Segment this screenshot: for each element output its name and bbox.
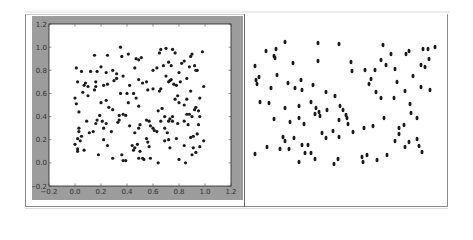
data-point <box>375 90 378 95</box>
data-point <box>364 68 367 73</box>
data-point <box>106 144 109 147</box>
data-point <box>314 157 317 162</box>
data-point <box>111 108 114 111</box>
data-point <box>332 129 335 134</box>
data-point <box>307 143 310 148</box>
data-point <box>416 137 419 142</box>
data-point <box>177 101 180 104</box>
data-point <box>131 144 134 147</box>
data-point <box>317 59 320 64</box>
data-point <box>202 139 205 142</box>
data-point <box>337 157 340 162</box>
data-point <box>310 100 313 105</box>
data-point <box>338 42 341 47</box>
data-point <box>310 151 313 156</box>
data-point <box>145 137 148 140</box>
data-point <box>155 66 158 69</box>
data-point <box>122 74 125 77</box>
data-point <box>404 145 407 150</box>
data-point <box>105 99 108 102</box>
data-point <box>362 160 365 165</box>
data-point <box>284 40 287 45</box>
data-point <box>128 124 131 127</box>
data-point <box>170 78 173 81</box>
data-point <box>185 98 188 101</box>
data-point <box>119 46 122 49</box>
data-point <box>404 89 407 94</box>
data-point <box>118 114 121 117</box>
data-point <box>303 122 306 127</box>
data-point <box>146 140 149 143</box>
data-point <box>111 69 114 72</box>
data-point <box>298 104 301 109</box>
data-point <box>115 72 118 75</box>
data-point <box>142 158 145 161</box>
data-point <box>339 104 342 109</box>
x-tick-label: 1.0 <box>199 188 210 196</box>
data-point <box>163 127 166 130</box>
data-point <box>410 111 413 116</box>
data-point <box>352 130 355 135</box>
data-point <box>301 88 304 93</box>
data-point <box>390 52 393 57</box>
data-point <box>301 143 304 148</box>
data-point <box>73 143 76 146</box>
data-point <box>429 88 432 93</box>
data-point <box>84 81 87 84</box>
data-point <box>275 47 278 52</box>
data-point <box>409 102 412 107</box>
data-point <box>168 146 171 149</box>
data-point <box>201 50 204 53</box>
data-point <box>115 77 118 80</box>
data-point <box>284 139 287 144</box>
data-point <box>394 67 397 72</box>
data-point <box>75 66 78 69</box>
data-point <box>118 118 121 121</box>
data-point <box>197 109 200 112</box>
data-point <box>420 85 423 90</box>
data-point <box>190 153 193 156</box>
y-tick-label: 0.0 <box>36 159 47 167</box>
data-point <box>175 84 178 87</box>
data-point <box>192 135 195 138</box>
data-point <box>412 74 415 79</box>
data-point <box>266 145 269 150</box>
data-point <box>88 131 91 134</box>
data-point <box>192 146 195 149</box>
x-tick-label: 0.4 <box>121 188 133 196</box>
data-point <box>274 56 277 61</box>
data-point <box>161 107 164 110</box>
data-point <box>183 59 186 62</box>
data-point <box>276 73 279 78</box>
data-point <box>177 71 180 74</box>
data-point <box>334 94 337 99</box>
data-point <box>124 159 127 162</box>
data-point <box>133 146 136 149</box>
data-point <box>164 74 167 77</box>
data-point <box>259 100 262 105</box>
data-point <box>403 123 406 128</box>
data-point <box>175 137 178 140</box>
data-point <box>294 86 297 91</box>
data-point <box>427 47 430 52</box>
data-point <box>254 152 257 157</box>
data-point <box>146 88 149 91</box>
data-point <box>94 80 97 83</box>
data-point <box>148 120 151 123</box>
data-point <box>338 135 341 140</box>
data-point <box>342 108 345 113</box>
data-point <box>298 160 301 165</box>
data-point <box>190 115 193 118</box>
data-point <box>75 102 78 105</box>
data-point <box>421 150 424 155</box>
data-point <box>298 116 301 121</box>
data-point <box>270 86 273 91</box>
data-point <box>314 112 317 117</box>
data-point <box>137 127 140 130</box>
y-tick-label: 0.8 <box>36 67 47 75</box>
data-point <box>279 147 282 152</box>
data-point <box>76 80 79 83</box>
data-point <box>102 138 105 141</box>
data-point <box>174 51 177 54</box>
data-point <box>183 144 186 147</box>
